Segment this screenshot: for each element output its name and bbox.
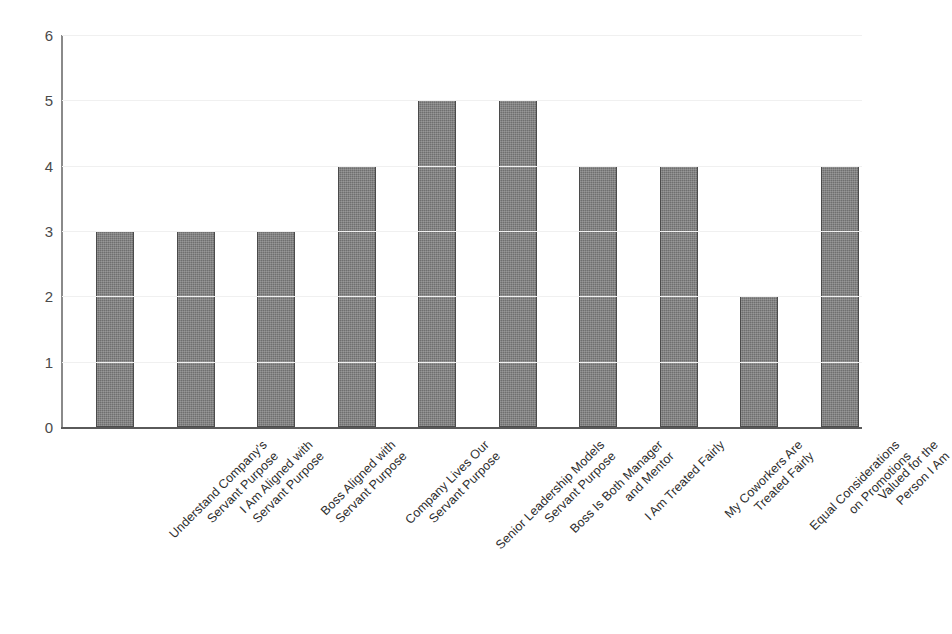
x-axis-category-labels: Understand Company'sServant PurposeI Am … (0, 429, 886, 634)
bar (418, 100, 456, 427)
y-tick-label-5: 5 (13, 93, 53, 108)
bar (257, 231, 295, 427)
x-tick-label: Boss Aligned withServant Purpose (317, 437, 410, 530)
gridline-2 (62, 296, 862, 297)
bar (96, 231, 134, 427)
y-tick-label-4: 4 (13, 158, 53, 173)
bar (177, 231, 215, 427)
bar (499, 100, 537, 427)
gridline-1 (62, 362, 862, 363)
gridline-6 (62, 35, 862, 36)
gridline-3 (62, 231, 862, 232)
y-tick-label-6: 6 (13, 28, 53, 43)
plot-area (62, 35, 862, 427)
y-tick-label-2: 2 (13, 289, 53, 304)
gridline-5 (62, 100, 862, 101)
x-tick-label: My Coworkers AreTreated Fairly (721, 437, 817, 533)
gridline-4 (62, 166, 862, 167)
x-tick-label: Company Lives OurServant Purpose (401, 437, 503, 539)
y-tick-label-1: 1 (13, 354, 53, 369)
y-tick-label-3: 3 (13, 224, 53, 239)
